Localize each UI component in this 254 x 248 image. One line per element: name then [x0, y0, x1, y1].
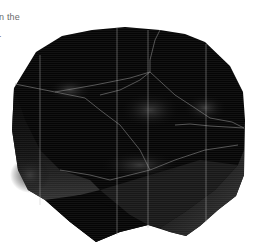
dark-faceted-object-image	[0, 0, 254, 248]
